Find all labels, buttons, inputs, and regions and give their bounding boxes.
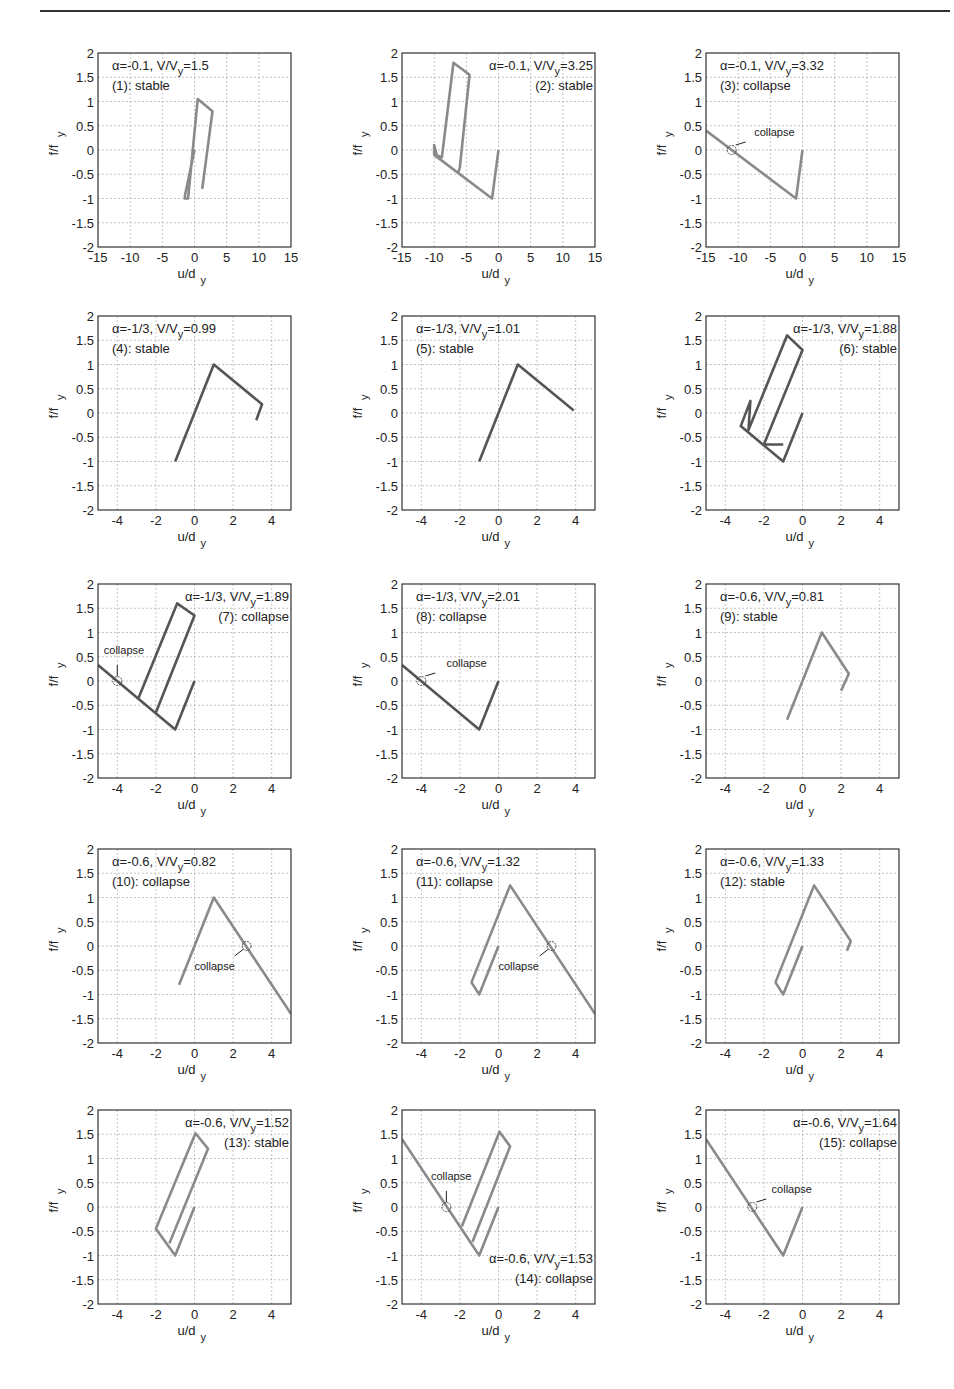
plot-area	[706, 131, 803, 199]
y-tick-label: 1	[695, 626, 702, 641]
y-tick-label: 0.5	[380, 1176, 398, 1191]
subplot-1: -15-10-5051015-2-1.5-1-0.500.511.52u/dyf…	[98, 53, 398, 318]
hysteresis-loop	[462, 1132, 510, 1242]
x-tick-label: 4	[876, 513, 883, 528]
x-tick-label: -2	[454, 1307, 466, 1322]
collapse-label: collapse	[499, 960, 539, 972]
subplot-14: collapse-4-2024-2-1.5-1-0.500.511.52u/dy…	[402, 1110, 702, 1375]
y-axis-label: f/f	[46, 407, 61, 418]
x-tick-label: 4	[572, 513, 579, 528]
param-label: α=-0.6, V/Vy=1.33	[720, 854, 824, 873]
x-tick-label: 10	[252, 250, 266, 265]
y-tick-label: -2	[386, 1297, 398, 1312]
y-tick-label: -1.5	[680, 216, 702, 231]
param-label: α=-1/3, V/Vy=2.01	[416, 589, 520, 608]
y-axis-label: f/f	[350, 144, 365, 155]
x-tick-label: -2	[758, 513, 770, 528]
status-label: (10): collapse	[112, 874, 190, 889]
y-tick-label: -0.5	[680, 430, 702, 445]
x-tick-label: -2	[758, 1046, 770, 1061]
y-axis-label-sub: y	[358, 662, 370, 668]
x-axis-label: u/d	[481, 1062, 499, 1077]
hysteresis-curve	[402, 665, 499, 730]
hysteresis-curve	[706, 1139, 803, 1255]
y-tick-label: 0.5	[380, 650, 398, 665]
x-tick-label: 0	[191, 781, 198, 796]
y-tick-label: -0.5	[72, 963, 94, 978]
y-tick-label: 2	[695, 46, 702, 61]
x-tick-label: 0	[495, 781, 502, 796]
hysteresis-curve	[402, 1139, 499, 1255]
x-tick-label: 0	[191, 1307, 198, 1322]
subplot-13: -4-2024-2-1.5-1-0.500.511.52u/dyf/fyα=-0…	[98, 1110, 398, 1375]
x-tick-label: 4	[572, 781, 579, 796]
y-tick-label: -1.5	[680, 747, 702, 762]
x-tick-label: 15	[588, 250, 602, 265]
hysteresis-curve	[706, 131, 803, 199]
y-axis-label: f/f	[654, 675, 669, 686]
y-tick-label: -1	[690, 723, 702, 738]
y-axis-label: f/f	[46, 940, 61, 951]
y-tick-label: 0	[391, 1200, 398, 1215]
x-tick-label: -4	[720, 781, 732, 796]
y-tick-label: 1.5	[684, 333, 702, 348]
status-label: (15): collapse	[819, 1135, 897, 1150]
x-tick-label: 4	[268, 781, 275, 796]
y-tick-label: 2	[391, 1103, 398, 1118]
param-label: α=-0.1, V/Vy=3.32	[720, 58, 824, 77]
y-tick-label: 2	[391, 309, 398, 324]
collapse-arrow-icon	[756, 1199, 766, 1202]
y-tick-label: 1	[391, 358, 398, 373]
y-tick-label: 1	[391, 95, 398, 110]
y-tick-label: 1	[695, 1152, 702, 1167]
x-axis-label-sub: y	[809, 537, 815, 549]
param-label: α=-0.6, V/Vy=1.53	[489, 1251, 593, 1270]
x-tick-label: 0	[495, 250, 502, 265]
y-tick-label: -0.5	[680, 1224, 702, 1239]
x-axis-label-sub: y	[505, 274, 511, 286]
y-tick-label: 0	[695, 406, 702, 421]
y-tick-label: 0.5	[380, 119, 398, 134]
y-tick-label: 0	[695, 939, 702, 954]
y-tick-label: -2	[690, 503, 702, 518]
y-tick-label: 2	[391, 46, 398, 61]
subplot-10: collapse-4-2024-2-1.5-1-0.500.511.52u/dy…	[98, 849, 398, 1114]
subplot-15: collapse-4-2024-2-1.5-1-0.500.511.52u/dy…	[706, 1110, 954, 1375]
x-tick-label: 4	[572, 1046, 579, 1061]
x-tick-label: -2	[150, 1307, 162, 1322]
x-axis-label-sub: y	[505, 1070, 511, 1082]
y-axis-label: f/f	[654, 1201, 669, 1212]
y-tick-label: -1.5	[72, 479, 94, 494]
y-tick-label: -1.5	[376, 747, 398, 762]
x-tick-label: 0	[799, 1307, 806, 1322]
x-tick-label: 2	[837, 1046, 844, 1061]
y-tick-label: -0.5	[376, 1224, 398, 1239]
x-tick-label: 4	[268, 1046, 275, 1061]
hysteresis-curve	[156, 1133, 208, 1255]
x-axis-label: u/d	[177, 797, 195, 812]
x-tick-label: 5	[831, 250, 838, 265]
y-tick-label: 0.5	[684, 650, 702, 665]
x-axis-label: u/d	[785, 529, 803, 544]
y-tick-label: -2	[386, 771, 398, 786]
x-tick-label: 0	[191, 1046, 198, 1061]
y-tick-label: 0	[87, 939, 94, 954]
x-axis-label-sub: y	[201, 1070, 207, 1082]
x-axis-label: u/d	[177, 1323, 195, 1338]
y-tick-label: -1	[386, 988, 398, 1003]
plot-area	[741, 335, 803, 461]
subplot-12: -4-2024-2-1.5-1-0.500.511.52u/dyf/fyα=-0…	[706, 849, 954, 1114]
y-tick-label: -1	[386, 455, 398, 470]
y-tick-label: 0	[87, 674, 94, 689]
y-tick-label: -1.5	[72, 1273, 94, 1288]
y-tick-label: 0.5	[380, 915, 398, 930]
x-tick-label: -5	[461, 250, 473, 265]
y-tick-label: -1.5	[376, 1012, 398, 1027]
y-axis-label-sub: y	[358, 394, 370, 400]
y-tick-label: -0.5	[376, 167, 398, 182]
x-axis-label-sub: y	[809, 1331, 815, 1343]
x-tick-label: -4	[416, 781, 428, 796]
status-label: (3): collapse	[720, 78, 791, 93]
y-tick-label: 1.5	[380, 70, 398, 85]
x-tick-label: -2	[454, 781, 466, 796]
